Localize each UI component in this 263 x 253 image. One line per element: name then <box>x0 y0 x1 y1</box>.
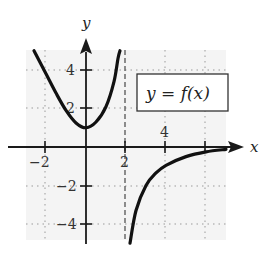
y-tick-label: −4 <box>56 216 77 232</box>
y-axis-label: y <box>81 14 91 32</box>
legend: y = f(x) <box>137 74 228 111</box>
x-tick-label: 2 <box>120 154 129 170</box>
legend-text: y = f(x) <box>145 83 210 103</box>
x-axis-label: x <box>250 138 259 156</box>
x-tick-label: −2 <box>29 154 50 170</box>
x-tick-label: 4 <box>160 124 169 140</box>
function-graph: −2 2 4 4 2 −2 −4 y x y = f(x) <box>0 0 263 253</box>
legend-label: y = f(x) <box>145 83 210 103</box>
y-tick-label: −2 <box>56 178 77 194</box>
y-tick-label: 4 <box>66 62 75 78</box>
